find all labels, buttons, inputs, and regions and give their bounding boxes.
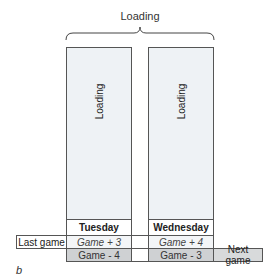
day-header-tuesday: Tuesday (66, 219, 132, 236)
loading-bar-tuesday: Loading (66, 47, 132, 220)
last-game-label: Last game (16, 235, 67, 249)
game-minus-cell-wednesday: Game - 3 (148, 248, 214, 262)
game-plus-cell-tuesday: Game + 3 (66, 235, 132, 249)
next-game-label: Next game (213, 248, 263, 262)
bar-label: Loading (176, 84, 187, 120)
loading-bar-wednesday: Loading (148, 47, 214, 220)
day-header-wednesday: Wednesday (148, 219, 214, 236)
bar-label: Loading (94, 84, 105, 120)
row-divider-line (131, 248, 149, 249)
row-divider-line (131, 261, 149, 262)
game-minus-cell-tuesday: Game - 4 (66, 248, 132, 262)
figure-letter: b (16, 264, 22, 276)
game-plus-cell-wednesday: Game + 4 (148, 235, 214, 249)
row-divider-line (131, 235, 149, 236)
curly-brace (0, 0, 280, 60)
